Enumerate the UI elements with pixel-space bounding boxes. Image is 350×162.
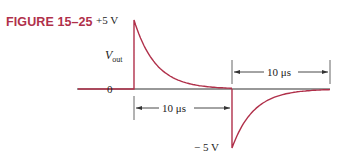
level-low-label: − 5 V xyxy=(194,141,219,153)
vout-label: Vout xyxy=(105,48,123,64)
positive-decay-curve xyxy=(78,20,232,89)
interval-1-label: 10 μs xyxy=(162,102,186,114)
arrowhead-left-1 xyxy=(136,106,142,110)
arrowhead-right-2 xyxy=(322,70,328,74)
level-zero-label: 0 xyxy=(107,83,113,95)
negative-recovery-curve xyxy=(232,89,330,148)
interval-2-label: 10 μs xyxy=(267,66,291,78)
vout-sub: out xyxy=(112,55,123,64)
arrowhead-right-1 xyxy=(224,106,230,110)
arrowhead-left-2 xyxy=(234,70,240,74)
level-high-label: +5 V xyxy=(96,14,118,26)
waveform-diagram: +5 V Vout 0 − 5 V 10 μs 10 μs xyxy=(0,0,350,162)
